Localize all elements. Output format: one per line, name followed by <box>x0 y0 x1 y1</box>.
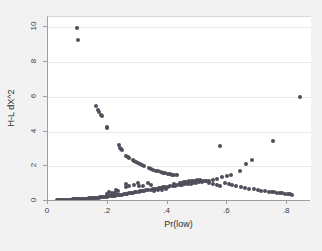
data-point <box>218 184 222 188</box>
plot-frame <box>47 16 311 201</box>
gridline <box>48 62 311 63</box>
data-point <box>75 26 79 30</box>
y-tick-mark <box>43 61 47 62</box>
y-tick-mark <box>43 96 47 97</box>
x-tick-label: .8 <box>283 206 290 215</box>
gridline <box>48 166 311 167</box>
data-point <box>250 158 254 162</box>
data-point <box>105 126 109 130</box>
x-tick-mark <box>47 200 48 204</box>
data-point <box>149 183 153 187</box>
data-point <box>105 192 109 196</box>
data-point <box>94 104 98 108</box>
gridline <box>48 132 311 133</box>
y-tick-mark <box>43 200 47 201</box>
x-tick-mark <box>167 200 168 204</box>
data-point <box>218 144 222 148</box>
y-tick-mark <box>43 165 47 166</box>
data-point <box>142 164 146 168</box>
data-point <box>271 139 275 143</box>
data-point <box>229 173 233 177</box>
x-axis-label: Pr(low) <box>47 219 310 229</box>
data-point <box>76 38 80 42</box>
x-tick-mark <box>107 200 108 204</box>
y-tick-mark <box>43 131 47 132</box>
data-point <box>175 173 179 177</box>
x-tick-label: .6 <box>223 206 230 215</box>
gridline <box>48 97 311 98</box>
data-point <box>298 95 302 99</box>
gridline <box>48 27 311 28</box>
data-point <box>164 187 168 191</box>
y-axis-label: H-L dX^2 <box>6 90 16 127</box>
chart-figure: 0.2.4.6.8 0246810 Pr(low) H-L dX^2 <box>0 0 322 251</box>
data-point <box>234 184 238 188</box>
data-point <box>225 174 229 178</box>
data-point <box>180 181 184 185</box>
y-tick-label: 0 <box>29 198 38 202</box>
y-tick-label: 10 <box>29 22 38 31</box>
y-tick-label: 2 <box>29 163 38 167</box>
y-tick-label: 8 <box>29 59 38 63</box>
plot-area <box>48 17 311 201</box>
x-tick-label: 0 <box>45 206 49 215</box>
data-point <box>127 184 131 188</box>
x-tick-mark <box>226 200 227 204</box>
x-tick-label: .2 <box>103 206 110 215</box>
data-point <box>247 187 251 191</box>
y-tick-mark <box>43 26 47 27</box>
data-point <box>290 193 294 197</box>
data-point <box>220 175 224 179</box>
data-point <box>100 114 104 118</box>
data-point <box>120 148 124 152</box>
x-tick-label: .4 <box>163 206 170 215</box>
x-axis-line <box>47 200 310 201</box>
x-tick-mark <box>286 200 287 204</box>
data-point <box>238 169 242 173</box>
y-tick-label: 6 <box>29 94 38 98</box>
y-tick-label: 4 <box>29 128 38 132</box>
data-point <box>136 181 140 185</box>
data-point <box>215 177 219 181</box>
